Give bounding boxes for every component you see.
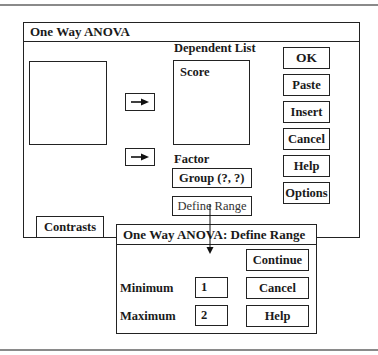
dependent-list-label: Dependent List: [174, 41, 256, 56]
continue-button[interactable]: Continue: [246, 249, 309, 271]
paste-label: Paste: [292, 78, 320, 93]
dependent-list-item[interactable]: Score: [180, 65, 210, 80]
define-range-cancel-button[interactable]: Cancel: [246, 277, 309, 299]
contrasts-button[interactable]: Contrasts: [36, 216, 104, 238]
factor-label: Factor: [174, 152, 209, 167]
top-rule: [0, 4, 378, 6]
minimum-input[interactable]: 1: [195, 277, 228, 298]
continue-label: Continue: [253, 253, 302, 268]
help-label: Help: [294, 159, 320, 174]
factor-value: Group (?, ?): [179, 171, 244, 186]
maximum-label: Maximum: [120, 309, 176, 324]
dependent-list[interactable]: Score: [173, 60, 250, 145]
minimum-value: 1: [201, 280, 207, 295]
ok-button[interactable]: OK: [283, 47, 330, 69]
cancel-label: Cancel: [288, 132, 325, 147]
cancel-button[interactable]: Cancel: [283, 128, 330, 150]
options-label: Options: [285, 186, 327, 201]
define-range-cancel-label: Cancel: [259, 281, 296, 296]
insert-button[interactable]: Insert: [283, 101, 330, 123]
minimum-label: Minimum: [120, 281, 173, 296]
dialog-title-bar: One Way ANOVA: [24, 23, 359, 42]
dialog-title: One Way ANOVA: [30, 24, 130, 40]
move-to-factor-button[interactable]: [125, 148, 155, 166]
define-range-help-button[interactable]: Help: [246, 305, 309, 327]
maximum-value: 2: [201, 308, 207, 323]
right-arrow-icon: [130, 153, 150, 161]
contrasts-label: Contrasts: [44, 220, 96, 235]
maximum-input[interactable]: 2: [195, 305, 228, 326]
paste-button[interactable]: Paste: [283, 74, 330, 96]
factor-field[interactable]: Group (?, ?): [172, 168, 252, 188]
move-to-dependent-button[interactable]: [125, 93, 155, 111]
right-arrow-icon: [130, 98, 150, 106]
ok-label: OK: [296, 50, 317, 66]
define-range-help-label: Help: [265, 309, 291, 324]
help-button[interactable]: Help: [283, 155, 330, 177]
source-variable-list[interactable]: [29, 61, 107, 145]
connector-arrow-icon: [204, 204, 216, 256]
define-range-title-bar: One Way ANOVA: Define Range: [117, 225, 316, 245]
bottom-rule: [0, 349, 378, 351]
options-button[interactable]: Options: [283, 182, 330, 204]
insert-label: Insert: [291, 105, 323, 120]
